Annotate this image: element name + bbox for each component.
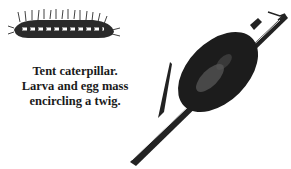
egg-mass-twig-illustration <box>130 0 291 169</box>
caption: Tent caterpillar. Larva and egg mass enc… <box>18 64 132 109</box>
caterpillar-illustration <box>8 8 128 48</box>
caption-line-2: Larva and egg mass <box>18 79 132 94</box>
caption-line-1: Tent caterpillar. <box>18 64 132 79</box>
caption-line-3: encircling a twig. <box>18 94 132 109</box>
